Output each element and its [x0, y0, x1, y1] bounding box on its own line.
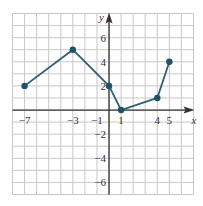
data-point [21, 83, 27, 89]
data-point [70, 47, 76, 53]
data-point [166, 59, 172, 65]
data-point [154, 95, 160, 101]
y-tick-label: −2 [94, 128, 106, 140]
x-tick-label: −7 [19, 114, 31, 126]
x-tick-label: 1 [118, 114, 124, 126]
function-graph: −7−3−1145642−2−4−6 x y [0, 0, 203, 206]
y-tick-label: −6 [94, 176, 106, 188]
data-point [106, 83, 112, 89]
x-tick-label: −3 [67, 114, 79, 126]
x-tick-label: −1 [91, 114, 103, 126]
y-axis-label: y [98, 11, 104, 23]
x-tick-label: 5 [167, 114, 173, 126]
x-axis-label: x [191, 114, 197, 126]
x-tick-label: 4 [155, 114, 161, 126]
data-point [118, 107, 124, 113]
y-tick-label: −4 [94, 152, 106, 164]
y-tick-label: 6 [101, 32, 107, 44]
y-tick-label: 4 [101, 56, 107, 68]
